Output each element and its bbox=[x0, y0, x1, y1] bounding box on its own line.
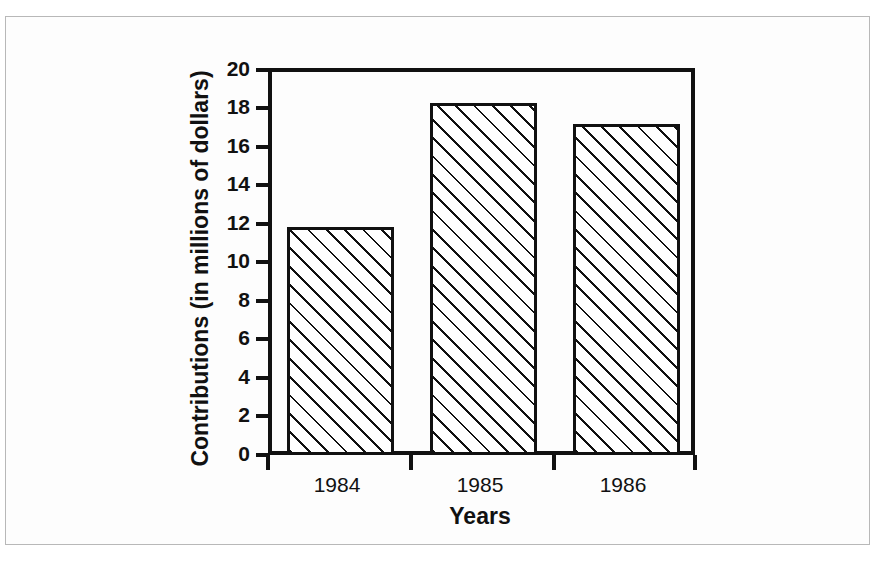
x-axis-title: Years bbox=[380, 503, 580, 530]
y-axis-tick-label-10: 10 bbox=[210, 250, 250, 271]
x-axis-tickmark-left bbox=[266, 455, 270, 470]
x-axis-label-1985: 1985 bbox=[420, 472, 540, 498]
y-axis-tick-label-6: 6 bbox=[210, 327, 250, 348]
bar-1985[interactable] bbox=[430, 103, 537, 455]
x-axis-label-1986: 1986 bbox=[563, 472, 683, 498]
x-axis-tickmark-right bbox=[693, 455, 697, 470]
y-axis-tick-label-2: 2 bbox=[210, 404, 250, 425]
bar-chart-figure: 20 18 16 14 12 10 8 6 4 2 0 bbox=[0, 0, 882, 562]
y-axis-tick-label-8: 8 bbox=[210, 289, 250, 310]
y-axis-tick-label-18: 18 bbox=[210, 96, 250, 117]
y-axis-tick-label-20: 20 bbox=[210, 58, 250, 79]
x-axis-tickmark-1 bbox=[409, 455, 413, 470]
bar-1986[interactable] bbox=[573, 124, 680, 455]
bars-layer bbox=[268, 68, 695, 455]
bar-1984[interactable] bbox=[287, 227, 394, 455]
y-axis-tick-label-14: 14 bbox=[210, 173, 250, 194]
y-axis-title: Contributions (in millions of dollars) bbox=[187, 49, 214, 489]
y-axis-tick-label-12: 12 bbox=[210, 212, 250, 233]
y-axis-tick-label-4: 4 bbox=[210, 366, 250, 387]
y-axis-tick-label-0: 0 bbox=[210, 443, 250, 464]
y-axis-tick-label-16: 16 bbox=[210, 135, 250, 156]
x-axis-label-1984: 1984 bbox=[277, 472, 397, 498]
x-axis-tickmark-2 bbox=[552, 455, 556, 470]
